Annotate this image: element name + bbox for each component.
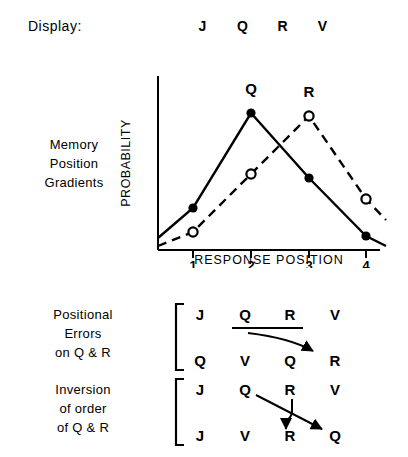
errors-top-letter: J [196, 306, 204, 323]
errors-diagram-svg: J Q R V Q V Q R [170, 300, 380, 374]
display-letter-row: J Q R V [183, 18, 343, 34]
display-letter: V [303, 18, 343, 34]
series-r [158, 111, 386, 246]
display-letter: J [183, 18, 223, 34]
caption-line: of Q & R [8, 418, 158, 437]
caption-line: of order [8, 399, 158, 418]
series-q-point [188, 203, 197, 212]
errors-bottom-letter: Q [194, 352, 206, 369]
inversion-bottom-letter: J [196, 427, 204, 444]
errors-top-letter: R [285, 306, 296, 323]
inversion-top-letter: J [196, 381, 204, 398]
figure-panel: Display: J Q R V Memory Position Gradien… [0, 0, 408, 457]
positional-errors-diagram: J Q R V Q V Q R [170, 300, 380, 374]
inversion-diagram-svg: J Q R V J V R Q [170, 375, 380, 449]
caption-positional-errors: Positional Errors on Q & R [8, 305, 158, 362]
errors-bottom-letter: V [240, 352, 250, 369]
display-label: Display: [28, 18, 82, 34]
series-r-point [188, 227, 197, 236]
series-r-point [304, 111, 313, 120]
series-q-point [246, 108, 255, 117]
display-letter: R [263, 18, 303, 34]
caption-line: Inversion [8, 380, 158, 399]
inversion-of-order-diagram: J Q R V J V R Q [170, 375, 380, 449]
inversion-top-letter: R [285, 381, 296, 398]
errors-bottom-letter: R [330, 352, 341, 369]
caption-line: on Q & R [8, 343, 158, 362]
caption-line: Errors [8, 324, 158, 343]
y-axis-title: PROBABILITY [119, 119, 133, 207]
left-bracket [176, 304, 184, 370]
errors-bottom-letter: Q [284, 352, 296, 369]
annotation-r: R [304, 83, 315, 100]
inversion-bottom-letter: V [240, 427, 250, 444]
memory-position-gradient-chart: 1 2 3 4 PROBABILITY [118, 68, 408, 268]
series-q-tail [366, 236, 386, 246]
left-bracket [176, 379, 184, 445]
errors-top-letter: Q [239, 306, 251, 323]
inversion-arrow-q [256, 395, 322, 429]
inversion-top-row: J Q R V [196, 381, 340, 398]
inversion-bottom-letter: Q [329, 427, 341, 444]
annotation-q: Q [245, 80, 257, 97]
series-q-line [158, 113, 366, 238]
caption-inversion-of-order: Inversion of order of Q & R [8, 380, 158, 437]
display-letter: Q [223, 18, 263, 34]
errors-top-row: J Q R V [196, 306, 340, 323]
inversion-arrow-r [286, 399, 292, 429]
inversion-bottom-letter: R [285, 427, 296, 444]
x-axis-title: RESPONSE POSITION [158, 253, 380, 267]
inversion-top-letter: V [330, 381, 340, 398]
series-q-point [304, 173, 313, 182]
errors-arrow [248, 333, 313, 351]
errors-bottom-row: Q V Q R [194, 352, 340, 369]
series-r-point [361, 194, 370, 203]
caption-line: Positional [8, 305, 158, 324]
inversion-bottom-row: J V R Q [196, 427, 341, 444]
inversion-top-letter: Q [239, 381, 251, 398]
chart-svg: 1 2 3 4 PROBABILITY [118, 68, 408, 268]
errors-top-letter: V [330, 306, 340, 323]
series-r-point [246, 169, 255, 178]
